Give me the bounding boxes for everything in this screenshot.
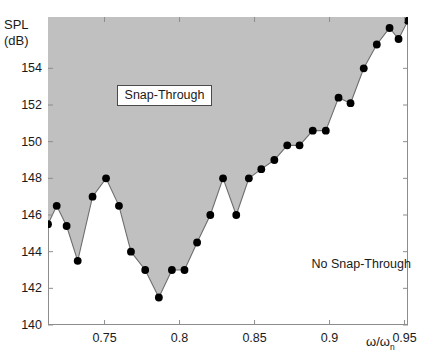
snap-through-region: [48, 17, 408, 298]
x-tick-label: 0.75: [80, 331, 130, 345]
y-tick-label: 144: [2, 245, 42, 259]
x-tick-label: 0.85: [230, 331, 280, 345]
chart-canvas: [0, 0, 422, 363]
x-axis-label-main: ω/ω: [366, 334, 390, 349]
y-axis-label-line2: (dB): [4, 34, 29, 48]
y-tick-label: 146: [2, 208, 42, 222]
y-tick-label: 154: [2, 61, 42, 75]
y-tick-label: 140: [2, 318, 42, 332]
x-tick-label: 0.8: [155, 331, 205, 345]
no-snap-through-label: No Snap-Through: [312, 257, 411, 271]
x-axis-label-subscript: n: [390, 342, 395, 352]
y-tick-label: 152: [2, 98, 42, 112]
y-tick-label: 148: [2, 171, 42, 185]
y-tick-label: 142: [2, 281, 42, 295]
y-axis-label-line1: SPL: [4, 18, 29, 32]
x-axis-label: ω/ωn: [366, 334, 395, 352]
chart-root: SPL (dB) 140142144146148150152154 0.750.…: [0, 0, 422, 363]
x-tick-label: 0.9: [305, 331, 355, 345]
y-tick-label: 150: [2, 135, 42, 149]
snap-through-label: Snap-Through: [117, 85, 213, 106]
